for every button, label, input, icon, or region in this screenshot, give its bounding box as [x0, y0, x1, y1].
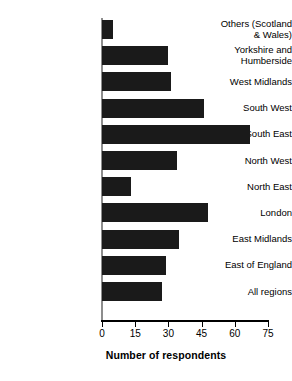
category-label: North West [196, 155, 292, 166]
bar [102, 282, 162, 301]
x-axis-line [101, 320, 269, 322]
tick-mark [202, 322, 203, 327]
bar [102, 230, 179, 249]
tick-mark [168, 322, 169, 327]
bar [102, 46, 168, 65]
category-label: Yorkshire and Humberside [196, 44, 292, 66]
tick-label: 75 [256, 328, 280, 340]
category-label: South West [196, 102, 292, 113]
tick-mark [235, 322, 236, 327]
category-label: All regions [196, 286, 292, 297]
tick-label: 45 [190, 328, 214, 340]
bar [102, 203, 208, 222]
bar [102, 256, 166, 275]
category-label: Others (Scotland & Wales) [196, 18, 292, 40]
bar [102, 177, 131, 196]
bar-chart: Others (Scotland & Wales)Yorkshire and H… [0, 0, 292, 381]
tick-label: 30 [156, 328, 180, 340]
bar [102, 125, 250, 144]
bar [102, 151, 177, 170]
tick-mark [102, 322, 103, 327]
tick-label: 0 [90, 328, 114, 340]
category-label: East Midlands [196, 233, 292, 244]
category-label: West Midlands [196, 76, 292, 87]
bar [102, 72, 171, 91]
bar [102, 20, 113, 39]
category-label: North East [196, 181, 292, 192]
tick-mark [135, 322, 136, 327]
tick-mark [268, 322, 269, 327]
tick-label: 15 [123, 328, 147, 340]
bar [102, 99, 204, 118]
x-axis-title: Number of respondents [0, 349, 292, 361]
category-label: London [196, 207, 292, 218]
tick-label: 60 [223, 328, 247, 340]
category-label: East of England [196, 259, 292, 270]
